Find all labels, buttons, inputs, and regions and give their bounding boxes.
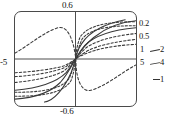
series-label-2: 2 (160, 45, 164, 54)
series-label-1: 1 (140, 45, 144, 54)
plot-figure: 0.6 -0.6 -5 0.2 0.5 1 5 2 4 1 (0, 0, 175, 118)
series-label-1-outer: 1 (160, 75, 164, 84)
series-label-5: 5 (140, 58, 144, 67)
series-label-0-5: 0.5 (139, 32, 149, 41)
leader-line-4 (150, 62, 160, 65)
y-max-tick-label: 0.6 (62, 1, 73, 10)
y-min-tick-label: -0.6 (60, 107, 73, 116)
leader-line-1-outer (153, 79, 160, 80)
curve-canvas (15, 12, 136, 106)
series-label-0-2: 0.2 (139, 19, 149, 28)
plot-frame (14, 11, 137, 107)
series-label-4: 4 (160, 58, 164, 67)
leader-line-2 (150, 49, 160, 52)
chart-figure: 0.6 -0.6 -5 0.2 0.5 1 5 2 4 1 (0, 0, 175, 118)
x-tick-label: -5 (0, 58, 7, 67)
